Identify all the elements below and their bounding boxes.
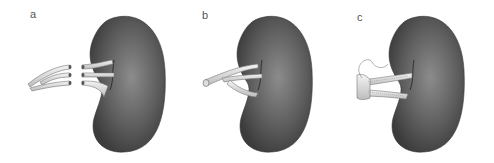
panel-label-b: b <box>202 9 208 21</box>
panel-label-c: c <box>357 11 363 23</box>
panel-a <box>28 16 165 152</box>
panel-label-a: a <box>30 8 36 20</box>
kidney-c <box>389 16 464 152</box>
donor-vessel-ends <box>28 65 70 91</box>
panel-c <box>357 16 464 152</box>
figure-canvas <box>0 0 494 163</box>
kidney-b <box>237 16 312 152</box>
panel-b <box>203 16 312 152</box>
